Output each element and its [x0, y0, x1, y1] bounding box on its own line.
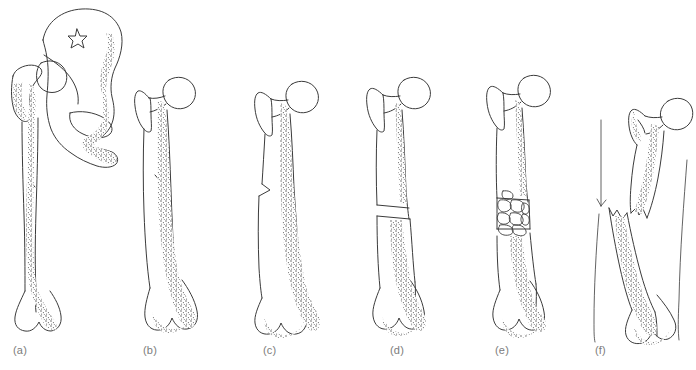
- panel-f-displaced-angulated: [594, 98, 693, 345]
- panel-d-complete-transverse: [367, 77, 431, 336]
- panel-label-e: (e): [495, 344, 509, 356]
- panel-b-intact-femur: [135, 77, 198, 333]
- panel-a-femur-with-pelvis: [12, 9, 123, 331]
- panel-label-c: (c): [263, 344, 276, 356]
- panel-c-incomplete-fissure: [255, 81, 320, 338]
- panel-e-comminuted: [487, 75, 551, 338]
- panel-label-a: (a): [13, 344, 27, 356]
- panel-label-d: (d): [390, 344, 404, 356]
- femur-fracture-illustration: [0, 0, 696, 370]
- panel-label-b: (b): [143, 344, 157, 356]
- panel-label-f: (f): [595, 344, 606, 356]
- figure-root: (a) (b) (c) (d) (e) (f): [0, 0, 696, 370]
